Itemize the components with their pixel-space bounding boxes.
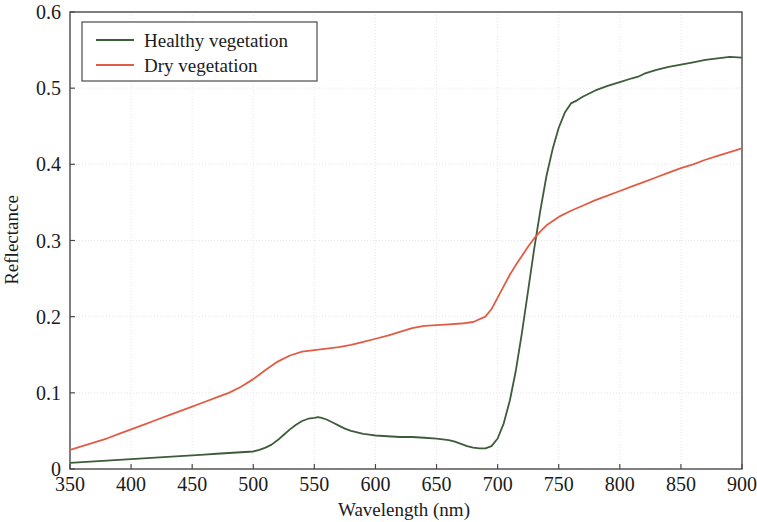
x-tick-label: 650 (422, 473, 452, 495)
x-axis-title: Wavelength (nm) (338, 499, 470, 521)
y-tick-label: 0.4 (36, 153, 61, 175)
x-tick-label: 400 (116, 473, 146, 495)
x-tick-label: 450 (177, 473, 207, 495)
chart-figure: 350400450500550600650700750800850900 00.… (0, 0, 757, 522)
reflectance-spectra-chart: 350400450500550600650700750800850900 00.… (0, 0, 757, 522)
y-tick-label: 0.2 (36, 306, 61, 328)
y-axis-title: Reflectance (1, 195, 22, 285)
x-tick-label: 600 (360, 473, 390, 495)
x-tick-label: 750 (544, 473, 574, 495)
y-tick-label: 0.3 (36, 230, 61, 252)
y-tick-label: 0.1 (36, 382, 61, 404)
x-tick-label: 700 (483, 473, 513, 495)
x-tick-label: 800 (605, 473, 635, 495)
y-tick-label: 0 (51, 458, 61, 480)
legend-label-0: Healthy vegetation (144, 30, 289, 51)
x-tick-label: 900 (727, 473, 757, 495)
y-tick-label: 0.5 (36, 77, 61, 99)
legend-label-1: Dry vegetation (144, 55, 258, 76)
x-tick-label: 850 (666, 473, 696, 495)
x-tick-label: 550 (299, 473, 329, 495)
chart-legend: Healthy vegetationDry vegetation (82, 22, 317, 81)
x-tick-label: 500 (238, 473, 268, 495)
y-tick-label: 0.6 (36, 1, 61, 23)
